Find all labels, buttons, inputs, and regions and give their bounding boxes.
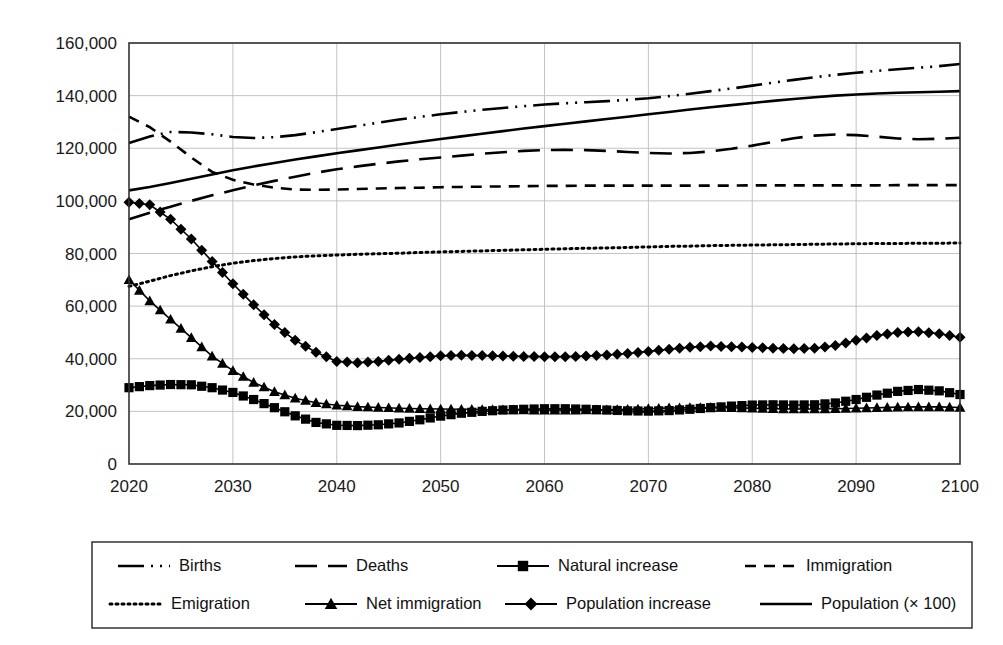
legend-label: Net immigration: [366, 594, 482, 612]
data-marker-square: [218, 385, 227, 394]
data-marker-square: [197, 382, 206, 391]
data-marker-square: [135, 382, 144, 391]
x-axis-tick-label: 2090: [837, 477, 875, 496]
legend-border: [92, 542, 972, 628]
data-marker-square: [384, 419, 393, 428]
data-marker-square: [363, 421, 372, 430]
data-marker-square: [187, 380, 196, 389]
data-marker-square: [852, 395, 861, 404]
data-marker-square: [156, 380, 165, 389]
legend-label: Emigration: [171, 594, 250, 612]
data-marker-square: [166, 380, 175, 389]
x-axis-tick-label: 2080: [733, 477, 771, 496]
data-marker-square: [291, 411, 300, 420]
x-axis-tick-label: 2100: [941, 477, 979, 496]
legend-label: Births: [179, 556, 221, 574]
data-marker-square: [270, 403, 279, 412]
data-marker-square: [259, 399, 268, 408]
legend-label: Deaths: [356, 556, 408, 574]
data-marker-square: [228, 388, 237, 397]
y-axis-tick-labels: 020,00040,00060,00080,000100,000120,0001…: [56, 34, 117, 474]
x-axis-tick-label: 2040: [318, 477, 356, 496]
data-marker-square: [353, 421, 362, 430]
data-marker-square: [394, 418, 403, 427]
chart-legend: BirthsDeathsNatural increaseImmigrationE…: [92, 542, 972, 628]
data-marker-square: [903, 386, 912, 395]
data-marker-square: [322, 419, 331, 428]
y-axis-tick-label: 0: [108, 455, 117, 474]
y-axis-tick-label: 140,000: [56, 87, 117, 106]
data-marker-square: [893, 387, 902, 396]
y-axis-tick-label: 40,000: [65, 350, 117, 369]
data-marker-square: [924, 386, 933, 395]
population-projection-chart: 020,00040,00060,00080,000100,000120,0001…: [0, 0, 1003, 645]
data-marker-square: [332, 421, 341, 430]
x-axis-tick-label: 2070: [629, 477, 667, 496]
data-marker-square: [280, 407, 289, 416]
legend-label: Population (× 100): [821, 594, 956, 612]
data-marker-square: [883, 389, 892, 398]
data-marker-square: [208, 383, 217, 392]
x-axis-tick-label: 2020: [110, 477, 148, 496]
x-axis-tick-labels: 202020302040205020602070208020902100: [110, 477, 979, 496]
y-axis-tick-label: 60,000: [65, 297, 117, 316]
data-marker-square: [249, 395, 258, 404]
x-axis-tick-label: 2050: [422, 477, 460, 496]
data-marker-square: [426, 413, 435, 422]
data-marker-square: [914, 385, 923, 394]
data-marker-square: [862, 393, 871, 402]
data-marker-square: [301, 415, 310, 424]
y-axis-tick-label: 80,000: [65, 245, 117, 264]
data-marker-square: [945, 388, 954, 397]
legend-marker-square: [518, 561, 528, 571]
data-marker-square: [415, 415, 424, 424]
legend-label: Natural increase: [558, 556, 678, 574]
x-axis-tick-label: 2060: [526, 477, 564, 496]
data-marker-square: [343, 421, 352, 430]
data-marker-square: [872, 390, 881, 399]
data-marker-square: [374, 420, 383, 429]
legend-label: Population increase: [566, 594, 711, 612]
data-marker-square: [405, 417, 414, 426]
data-marker-square: [935, 386, 944, 395]
chart-canvas: 020,00040,00060,00080,000100,000120,0001…: [0, 0, 1003, 645]
data-marker-square: [239, 391, 248, 400]
y-axis-tick-label: 20,000: [65, 402, 117, 421]
data-marker-square: [311, 418, 320, 427]
data-marker-square: [176, 380, 185, 389]
data-marker-square: [145, 381, 154, 390]
y-axis-tick-label: 160,000: [56, 34, 117, 53]
legend-label: Immigration: [806, 556, 892, 574]
y-axis-tick-label: 100,000: [56, 192, 117, 211]
y-axis-tick-label: 120,000: [56, 139, 117, 158]
x-axis-tick-label: 2030: [214, 477, 252, 496]
